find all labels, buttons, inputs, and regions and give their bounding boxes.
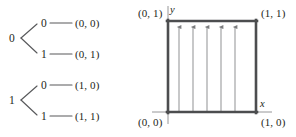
tree-pair-label-1-1: (1, 1)	[75, 111, 99, 122]
tree-root-label-1: 1	[9, 95, 15, 107]
tree-bit-label-1-1: 1	[41, 111, 47, 123]
binary-tree-panel: 0 0 1 (0, 0) (0, 1) 1 0 1 (1, 0) (1, 1)	[0, 0, 150, 137]
tree-pair-label-0-0: (0, 0)	[75, 18, 99, 29]
tree-root-label-0: 0	[9, 33, 15, 45]
corner-label-top-left: (0, 1)	[138, 8, 162, 19]
tree-bit-label-0-1: 1	[41, 49, 47, 61]
tree-edge-0-0	[21, 24, 37, 38]
figure-root: 0 0 1 (0, 0) (0, 1) 1 0 1 (1, 0) (1, 1)	[0, 0, 296, 137]
tree-edge-0-1	[21, 38, 37, 53]
tree-pair-label-0-1: (0, 1)	[75, 49, 99, 60]
corner-label-top-right: (1, 1)	[261, 8, 285, 19]
corner-label-bottom-right: (1, 0)	[261, 117, 285, 128]
unit-square-panel: y x (0, 1) (1, 1) (0, 0) (1, 0)	[148, 0, 296, 137]
tree-bit-label-1-0: 0	[41, 80, 47, 92]
tree-bit-label-0-0: 0	[41, 18, 47, 30]
tree-pair-label-1-0: (1, 0)	[75, 80, 99, 91]
flow-arrow-group	[179, 27, 235, 111]
corner-label-bottom-left: (0, 0)	[138, 117, 162, 128]
y-axis-label: y	[170, 5, 175, 16]
tree-edge-1-1	[21, 100, 37, 115]
x-axis-label: x	[260, 99, 265, 110]
tree-edge-1-0	[21, 86, 37, 100]
